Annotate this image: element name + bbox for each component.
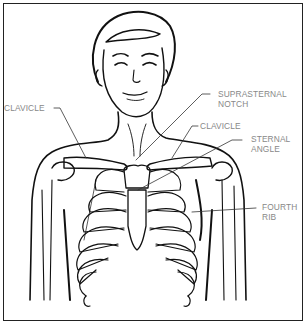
label-clavicle-right: CLAVICLE	[200, 121, 241, 131]
label-fourth-rib-line2: RIB	[262, 212, 297, 222]
sternum	[124, 165, 150, 250]
chest-illustration	[0, 0, 306, 327]
label-sternal-angle: STERNAL ANGLE	[251, 134, 290, 154]
label-suprasternal-line1: SUPRASTERNAL	[218, 89, 287, 99]
clavicles	[52, 157, 232, 180]
neck-shoulders	[30, 112, 246, 300]
label-fourth-rib: FOURTH RIB	[262, 202, 297, 222]
label-fourth-rib-line1: FOURTH	[262, 202, 297, 212]
label-suprasternal-line2: NOTCH	[218, 99, 287, 109]
label-sternal-angle-line2: ANGLE	[251, 144, 290, 154]
ribs-left	[77, 169, 126, 306]
label-clavicle-left: CLAVICLE	[4, 103, 45, 113]
head	[93, 12, 175, 117]
label-sternal-angle-line1: STERNAL	[251, 134, 290, 144]
label-clavicle-left-text: CLAVICLE	[4, 103, 45, 113]
label-suprasternal-notch: SUPRASTERNAL NOTCH	[218, 89, 287, 109]
ribs-right	[148, 169, 202, 306]
label-clavicle-right-text: CLAVICLE	[200, 121, 241, 131]
